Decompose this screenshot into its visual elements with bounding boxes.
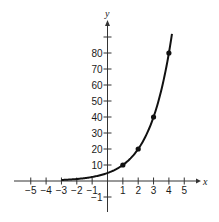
data-point xyxy=(120,162,125,167)
y-axis-label: y xyxy=(104,8,110,19)
y-ticks: −11020304050607080 xyxy=(91,37,111,203)
x-axis-arrow-icon xyxy=(196,179,201,184)
x-ticks: −5−4−3−2−112345 xyxy=(25,178,187,197)
y-axis-arrow-icon xyxy=(105,20,110,26)
y-tick-label: 40 xyxy=(91,112,103,123)
x-tick-label: 5 xyxy=(181,185,187,196)
x-tick-label: 1 xyxy=(120,185,126,196)
x-tick-label: −2 xyxy=(71,185,83,196)
y-tick-label: 30 xyxy=(91,128,103,139)
x-tick-label: 3 xyxy=(151,185,157,196)
exponential-curve xyxy=(61,34,172,180)
y-tick-label: −1 xyxy=(91,192,103,203)
y-tick-label: 50 xyxy=(91,96,103,107)
data-points xyxy=(120,50,171,167)
y-tick-label: 70 xyxy=(91,64,103,75)
data-point xyxy=(166,50,171,55)
y-axis xyxy=(105,20,110,212)
x-tick-label: −3 xyxy=(56,185,68,196)
data-point xyxy=(151,114,156,119)
data-point xyxy=(136,146,141,151)
exponential-chart: −5−4−3−2−112345 −11020304050607080 x y xyxy=(0,0,219,222)
x-tick-label: 4 xyxy=(166,185,172,196)
y-tick-label: 20 xyxy=(91,144,103,155)
y-tick-label: 80 xyxy=(91,48,103,59)
x-tick-label: −4 xyxy=(40,185,52,196)
y-tick-label: 10 xyxy=(91,160,103,171)
x-tick-label: −5 xyxy=(25,185,37,196)
x-axis-label: x xyxy=(202,176,208,187)
y-tick-label: 60 xyxy=(91,80,103,91)
x-tick-label: 2 xyxy=(135,185,141,196)
